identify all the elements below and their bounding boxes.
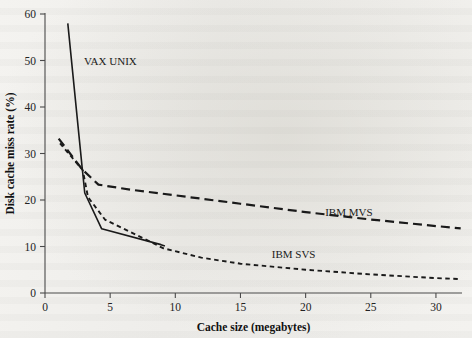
x-tick-label: 20 bbox=[300, 301, 312, 313]
series-line-ibm-mvs bbox=[59, 139, 461, 229]
y-axis-title: Disk cache miss rate (%) bbox=[4, 92, 17, 214]
series-label-ibm-svs: IBM SVS bbox=[272, 248, 316, 260]
x-tick-label: 30 bbox=[430, 301, 442, 313]
y-tick-label: 10 bbox=[25, 241, 37, 253]
series-label-ibm-mvs: IBM MVS bbox=[325, 206, 372, 218]
y-tick-label: 40 bbox=[25, 101, 37, 113]
y-tick-label: 0 bbox=[30, 287, 36, 299]
series-labels-group: VAX UNIXIBM MVSIBM SVS bbox=[84, 55, 372, 260]
axes-group: 0102030405060051015202530 bbox=[25, 8, 463, 313]
chart-figure: 0102030405060051015202530 VAX UNIXIBM MV… bbox=[0, 0, 472, 338]
x-axis-title: Cache size (megabytes) bbox=[197, 321, 311, 334]
x-tick-label: 25 bbox=[365, 301, 377, 313]
x-tick-label: 10 bbox=[170, 301, 182, 313]
y-tick-label: 30 bbox=[25, 148, 37, 160]
y-tick-label: 20 bbox=[25, 194, 37, 206]
x-tick-label: 15 bbox=[235, 301, 247, 313]
y-tick-label: 60 bbox=[25, 8, 37, 20]
y-tick-label: 50 bbox=[25, 55, 37, 67]
series-line-ibm-svs bbox=[60, 143, 461, 279]
x-tick-label: 5 bbox=[107, 301, 113, 313]
x-tick-label: 0 bbox=[42, 301, 48, 313]
chart-svg: 0102030405060051015202530 VAX UNIXIBM MV… bbox=[0, 0, 472, 338]
series-label-vax-unix: VAX UNIX bbox=[84, 55, 137, 67]
axis-titles-group: Cache size (megabytes) Disk cache miss r… bbox=[4, 92, 311, 334]
